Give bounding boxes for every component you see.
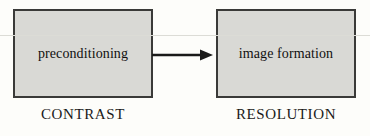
node-preconditioning-label: preconditioning — [38, 47, 128, 61]
node-preconditioning[interactable]: preconditioning — [13, 9, 153, 98]
arrow-precond-to-imageformation — [152, 48, 216, 62]
node-image-formation-label: image formation — [239, 47, 333, 61]
caption-contrast: CONTRAST — [13, 106, 153, 123]
arrow-right-icon — [152, 48, 216, 62]
diagram-canvas: preconditioning image formation CONTRAST… — [0, 0, 370, 136]
caption-resolution: RESOLUTION — [216, 106, 356, 123]
node-image-formation[interactable]: image formation — [216, 9, 356, 98]
